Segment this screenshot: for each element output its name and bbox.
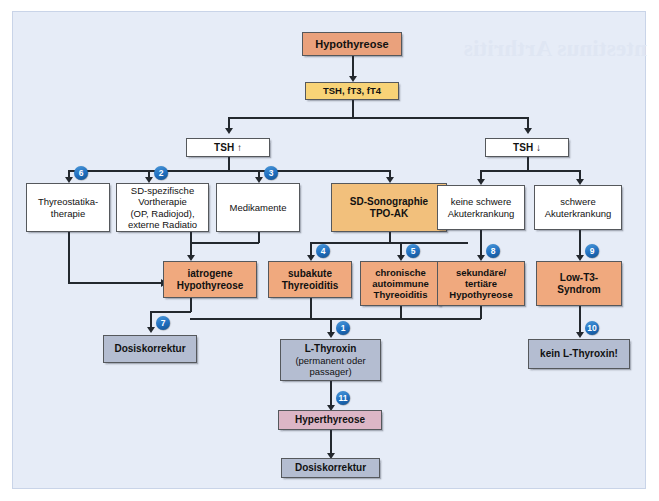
node-lthyroxin-line2: (permanent oder bbox=[295, 355, 365, 366]
node-labs-label: TSH, fT3, fT4 bbox=[323, 85, 381, 96]
badge-11[interactable]: 11 bbox=[336, 391, 350, 405]
edge-subakute-down bbox=[310, 298, 312, 319]
node-sdspezifische-line3: (OP, Radiojod), bbox=[130, 208, 194, 219]
node-tsh-high-label: TSH ↑ bbox=[214, 142, 242, 154]
node-hypothyreose-label: Hypothyreose bbox=[315, 38, 388, 51]
node-keinlthyroxin-label: kein L-Thyroxin! bbox=[540, 348, 618, 360]
badge-7-label: 7 bbox=[161, 319, 166, 328]
node-dosiskorrektur-bottom[interactable]: Dosiskorrektur bbox=[281, 458, 380, 478]
node-keineschwere-line2: Akuterkrankung bbox=[448, 208, 515, 219]
badge-10[interactable]: 10 bbox=[585, 321, 599, 335]
badge-10-label: 10 bbox=[587, 324, 596, 333]
node-schwere-line2: Akuterkrankung bbox=[545, 208, 612, 219]
edge-sonographie-fanbar bbox=[310, 242, 468, 244]
edge-tshhigh-fanbar bbox=[68, 170, 390, 172]
node-sd-sonographie-tpo-ak[interactable]: SD-Sonographie TPO-AK bbox=[331, 183, 447, 232]
node-schwere-akuterkrankung[interactable]: schwere Akuterkrankung bbox=[534, 185, 622, 230]
edge-chronische-down bbox=[400, 306, 402, 319]
node-thyreostatika-line2: therapie bbox=[51, 208, 85, 219]
badge-6-label: 6 bbox=[79, 169, 84, 178]
edge-sekundaere-down bbox=[480, 306, 482, 319]
node-labs[interactable]: TSH, fT3, fT4 bbox=[305, 82, 399, 100]
node-tsh-high[interactable]: TSH ↑ bbox=[186, 138, 270, 157]
badge-8[interactable]: 8 bbox=[486, 244, 500, 258]
node-sonographie-line2: TPO-AK bbox=[370, 208, 408, 220]
node-iatrogene-hypothyreose[interactable]: iatrogene Hypothyreose bbox=[163, 261, 257, 298]
node-dosiskorrektur-bottom-label: Dosiskorrektur bbox=[295, 462, 366, 474]
node-chronische-line1: chronische bbox=[375, 267, 426, 278]
badge-5-label: 5 bbox=[411, 247, 416, 256]
node-schwere-line1: schwere bbox=[560, 196, 595, 207]
node-sonographie-line1: SD-Sonographie bbox=[350, 196, 428, 208]
arrowhead-dosiskorrektur-left bbox=[147, 327, 155, 333]
node-subakute-line2: Thyreoiditis bbox=[282, 280, 339, 292]
edge-medikamente-left bbox=[190, 242, 259, 244]
node-hyperthyreose[interactable]: Hyperthyreose bbox=[278, 410, 382, 430]
edge-keineschwere-down bbox=[480, 230, 482, 257]
node-lthyroxin-line1: L-Thyroxin bbox=[305, 343, 357, 355]
node-l-thyroxin[interactable]: L-Thyroxin (permanent oder passager) bbox=[280, 339, 381, 381]
node-medikamente[interactable]: Medikamente bbox=[216, 183, 300, 232]
node-sdspezifische-line2: Vortherapie bbox=[138, 196, 187, 207]
edge-lthyroxin-down bbox=[330, 381, 332, 407]
badge-4[interactable]: 4 bbox=[316, 244, 330, 258]
badge-8-label: 8 bbox=[491, 247, 496, 256]
badge-11-label: 11 bbox=[339, 394, 348, 403]
badge-4-label: 4 bbox=[321, 247, 326, 256]
node-low-t3-syndrom[interactable]: Low-T3- Syndrom bbox=[536, 261, 622, 306]
badge-9[interactable]: 9 bbox=[585, 244, 599, 258]
node-hyperthyreose-label: Hyperthyreose bbox=[295, 414, 365, 426]
node-subakute-thyreoiditis[interactable]: subakute Thyreoiditis bbox=[268, 261, 352, 298]
node-sd-spezifische-vortherapie[interactable]: SD-spezifische Vortherapie (OP, Radiojod… bbox=[116, 183, 209, 232]
node-sekundaere-line1: sekundäre/ bbox=[456, 267, 506, 278]
badge-9-label: 9 bbox=[590, 247, 595, 256]
badge-7[interactable]: 7 bbox=[156, 316, 170, 330]
node-chronische-line3: Thyreoiditis bbox=[374, 289, 428, 300]
node-sekundaere-line3: Hypothyreose bbox=[449, 289, 512, 300]
node-thyreostatika-therapie[interactable]: Thyreostatika- therapie bbox=[26, 183, 110, 232]
arrowhead-tsh-high bbox=[225, 128, 233, 134]
edge-iatrogene-down bbox=[190, 298, 192, 312]
node-sdspezifische-line4: externe Radiatio bbox=[128, 219, 197, 230]
edge-labs-split bbox=[352, 100, 354, 118]
node-dosiskorrektur-left[interactable]: Dosiskorrektur bbox=[103, 335, 197, 363]
node-lthyroxin-line3: passager) bbox=[309, 366, 351, 377]
badge-1[interactable]: 1 bbox=[336, 321, 350, 335]
badge-2[interactable]: 2 bbox=[154, 166, 168, 180]
edge-hyperthyreose-down bbox=[330, 430, 332, 455]
edge-root-labs bbox=[352, 56, 354, 78]
badge-2-label: 2 bbox=[159, 169, 164, 178]
edge-tshlow-down bbox=[527, 157, 529, 171]
node-sekundaere-line2: tertiäre bbox=[465, 278, 497, 289]
node-thyreostatika-line1: Thyreostatika- bbox=[38, 196, 98, 207]
badge-6[interactable]: 6 bbox=[74, 166, 88, 180]
node-keine-schwere-akuterkrankung[interactable]: keine schwere Akuterkrankung bbox=[437, 185, 525, 230]
node-sdspezifische-line1: SD-spezifische bbox=[131, 185, 194, 196]
edge-iatrogene-to-dosis bbox=[150, 311, 191, 313]
node-chronische-line2: autoimmune bbox=[372, 278, 428, 289]
edge-schwere-down bbox=[579, 230, 581, 257]
edge-tshhigh-down bbox=[228, 157, 230, 171]
node-lowt3-line2: Syndrom bbox=[557, 284, 600, 296]
node-hypothyreose[interactable]: Hypothyreose bbox=[302, 32, 402, 56]
edge-thyreostatika-right bbox=[68, 282, 163, 284]
node-medikamente-label: Medikamente bbox=[229, 202, 286, 213]
badge-3[interactable]: 3 bbox=[264, 166, 278, 180]
badge-5[interactable]: 5 bbox=[406, 244, 420, 258]
diagram-canvas: ntestinus Arthritis bbox=[0, 0, 659, 501]
edge-sdspezifische-down bbox=[190, 232, 192, 257]
node-chronische-autoimmune-thyreoiditis[interactable]: chronische autoimmune Thyreoiditis bbox=[360, 261, 441, 306]
node-lowt3-line1: Low-T3- bbox=[560, 272, 598, 284]
node-tsh-low-label: TSH ↓ bbox=[513, 142, 541, 154]
node-iatrogene-line1: iatrogene bbox=[187, 268, 232, 280]
node-kein-l-thyroxin[interactable]: kein L-Thyroxin! bbox=[528, 339, 630, 369]
node-subakute-line1: subakute bbox=[288, 268, 332, 280]
node-sekundaere-tertiaere-hypothyreose[interactable]: sekundäre/ tertiäre Hypothyreose bbox=[437, 261, 525, 306]
node-iatrogene-line2: Hypothyreose bbox=[177, 280, 244, 292]
edge-split-bar bbox=[228, 117, 528, 119]
node-tsh-low[interactable]: TSH ↓ bbox=[485, 138, 569, 157]
badge-3-label: 3 bbox=[269, 169, 274, 178]
edge-thyreostatika-down bbox=[68, 232, 70, 283]
node-keineschwere-line1: keine schwere bbox=[451, 196, 512, 207]
edge-tshlow-fanbar bbox=[480, 170, 580, 172]
